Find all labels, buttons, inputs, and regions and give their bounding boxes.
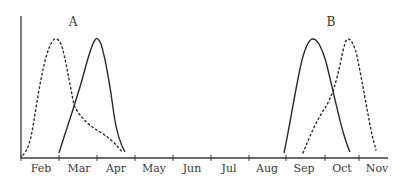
month-label-apr: Apr — [105, 162, 127, 175]
month-label-jul: Jul — [220, 162, 236, 175]
month-label-sep: Sep — [293, 162, 314, 175]
group-label-b: B — [327, 15, 336, 29]
month-label-mar: Mar — [67, 162, 91, 175]
solid-curve-a — [59, 39, 125, 153]
x-axis-labels: Feb Mar Apr May Jun Jul Aug Sep Oct Nov — [31, 162, 389, 175]
month-label-may: May — [142, 162, 167, 175]
seasonal-curves-chart: Feb Mar Apr May Jun Jul Aug Sep Oct Nov … — [0, 0, 408, 181]
solid-curve-b — [284, 39, 350, 153]
month-label-aug: Aug — [255, 162, 278, 175]
month-label-oct: Oct — [332, 162, 352, 175]
month-label-nov: Nov — [366, 162, 389, 175]
dotted-curve-a — [23, 39, 122, 155]
group-label-a: A — [68, 15, 78, 29]
month-label-feb: Feb — [31, 162, 52, 175]
month-label-jun: Jun — [182, 162, 202, 175]
dotted-curve-b — [303, 39, 376, 153]
